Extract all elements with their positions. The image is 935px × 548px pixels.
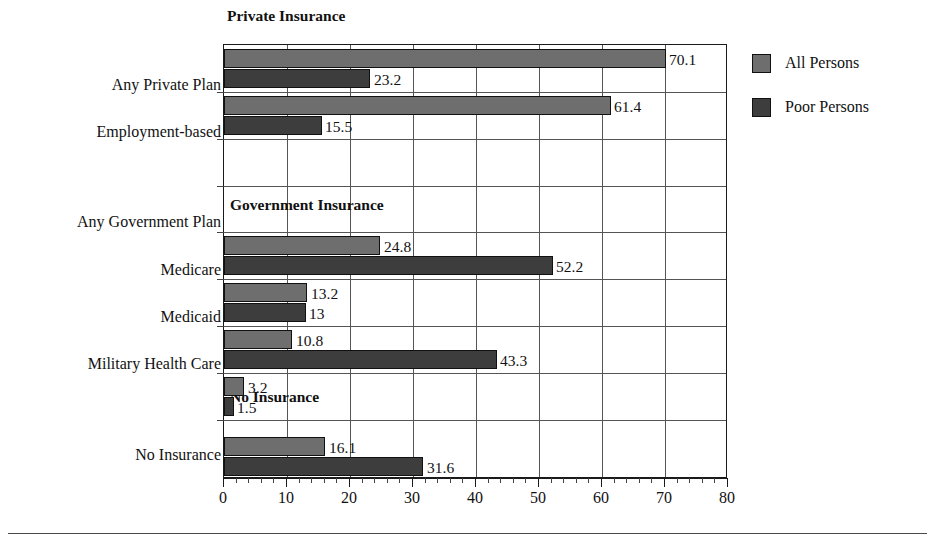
x-tick-minor-18	[336, 478, 337, 483]
bar-any-government-plan-all-persons	[224, 236, 380, 255]
bar-military-health-care-all-persons	[224, 377, 244, 396]
bar-value-any-government-plan-poor-persons: 52.2	[556, 259, 583, 275]
x-tick-major-10	[286, 478, 287, 487]
gridline-horizontal-8	[224, 420, 726, 421]
x-tick-minor-44	[500, 478, 501, 483]
chart-figure: Private Insurance Any Private Plan Emplo…	[0, 0, 935, 548]
bar-value-employment-based-all-persons: 61.4	[614, 99, 641, 115]
gridline-horizontal-4	[224, 232, 726, 233]
gridline-horizontal-6	[224, 326, 726, 327]
x-tick-minor-72	[677, 478, 678, 483]
bar-military-health-care-poor-persons	[224, 397, 234, 416]
x-tick-label-60: 60	[593, 490, 609, 506]
x-tick-minor-54	[563, 478, 564, 483]
legend-item-all-persons: All Persons	[752, 52, 869, 74]
x-tick-major-30	[412, 478, 413, 487]
x-tick-major-20	[349, 478, 350, 487]
bar-value-military-health-care-poor-persons: 1.5	[237, 400, 256, 416]
x-tick-minor-6	[261, 478, 262, 483]
bar-value-any-government-plan-all-persons: 24.8	[384, 239, 411, 255]
x-tick-major-60	[601, 478, 602, 487]
x-tick-minor-56	[576, 478, 577, 483]
x-tick-minor-24	[374, 478, 375, 483]
plot-area: Government Insurance No Insurance 70.1 2…	[223, 44, 727, 478]
page-divider-rule	[8, 533, 927, 534]
x-tick-label-10: 10	[278, 490, 294, 506]
x-tick-major-0	[223, 478, 224, 487]
x-tick-minor-46	[513, 478, 514, 483]
x-tick-minor-48	[525, 478, 526, 483]
x-tick-minor-42	[488, 478, 489, 483]
y-tick-5	[217, 279, 224, 280]
gridline-horizontal-3	[224, 186, 726, 187]
bar-employment-based-poor-persons	[224, 116, 322, 135]
x-tick-minor-34	[437, 478, 438, 483]
x-tick-minor-66	[639, 478, 640, 483]
bar-any-private-plan-all-persons	[224, 49, 666, 68]
x-tick-label-0: 0	[219, 490, 227, 506]
bar-value-any-private-plan-poor-persons: 23.2	[374, 72, 401, 88]
y-tick-4	[217, 232, 224, 233]
bar-value-military-health-care-all-persons: 3.2	[248, 380, 267, 396]
category-label-no-insurance: No Insurance	[135, 447, 221, 463]
y-tick-7	[217, 373, 224, 374]
bar-value-no-insurance-all-persons: 16.1	[329, 440, 356, 456]
x-tick-minor-38	[462, 478, 463, 483]
group-header-government-insurance: Government Insurance	[230, 197, 384, 213]
y-tick-8	[217, 420, 224, 421]
category-label-medicare: Medicare	[161, 262, 221, 278]
bar-value-no-insurance-poor-persons: 31.6	[427, 460, 454, 476]
bar-value-any-private-plan-all-persons: 70.1	[669, 52, 696, 68]
bar-medicare-poor-persons	[224, 303, 306, 322]
x-tick-minor-4	[248, 478, 249, 483]
bar-value-medicaid-poor-persons: 43.3	[500, 353, 527, 369]
x-tick-minor-32	[425, 478, 426, 483]
category-label-any-government-plan: Any Government Plan	[77, 214, 221, 230]
bar-medicaid-all-persons	[224, 330, 292, 349]
x-tick-minor-36	[450, 478, 451, 483]
gridline-vertical-70	[665, 45, 666, 477]
bar-any-government-plan-poor-persons	[224, 256, 553, 275]
legend-label-poor-persons: Poor Persons	[785, 99, 869, 115]
bar-value-medicaid-all-persons: 10.8	[296, 333, 323, 349]
y-tick-2	[217, 139, 224, 140]
x-tick-major-50	[538, 478, 539, 487]
chart-legend: All Persons Poor Persons	[752, 52, 869, 140]
x-tick-minor-12	[299, 478, 300, 483]
bar-employment-based-all-persons	[224, 96, 611, 115]
bar-value-medicare-all-persons: 13.2	[311, 286, 338, 302]
bar-value-medicare-poor-persons: 13	[309, 306, 325, 322]
x-tick-minor-14	[311, 478, 312, 483]
legend-item-poor-persons: Poor Persons	[752, 96, 869, 118]
x-tick-label-80: 80	[719, 490, 735, 506]
group-header-private-insurance: Private Insurance	[227, 8, 345, 24]
x-tick-label-40: 40	[467, 490, 483, 506]
x-tick-major-70	[664, 478, 665, 487]
x-tick-minor-8	[273, 478, 274, 483]
bar-medicaid-poor-persons	[224, 350, 497, 369]
x-tick-minor-58	[588, 478, 589, 483]
category-label-employment-based: Employment-based	[97, 124, 221, 140]
legend-swatch-icon-poor-persons	[752, 98, 771, 117]
x-tick-major-40	[475, 478, 476, 487]
category-label-any-private-plan: Any Private Plan	[112, 77, 221, 93]
x-tick-minor-28	[399, 478, 400, 483]
gridline-horizontal-1	[224, 92, 726, 93]
gridline-horizontal-5	[224, 279, 726, 280]
x-tick-major-80	[727, 478, 728, 487]
x-tick-minor-74	[689, 478, 690, 483]
legend-label-all-persons: All Persons	[785, 55, 859, 71]
x-tick-minor-2	[236, 478, 237, 483]
bar-no-insurance-poor-persons	[224, 457, 423, 476]
x-axis: 0 10 20 30 40 50 60 70 80	[223, 478, 727, 479]
bar-value-employment-based-poor-persons: 15.5	[325, 119, 352, 135]
y-tick-3	[217, 186, 224, 187]
bar-no-insurance-all-persons	[224, 437, 325, 456]
x-tick-minor-52	[551, 478, 552, 483]
y-tick-1	[217, 92, 224, 93]
x-tick-label-30: 30	[404, 490, 420, 506]
gridline-horizontal-2	[224, 139, 726, 140]
x-tick-minor-68	[651, 478, 652, 483]
x-tick-label-20: 20	[341, 490, 357, 506]
x-tick-minor-76	[702, 478, 703, 483]
